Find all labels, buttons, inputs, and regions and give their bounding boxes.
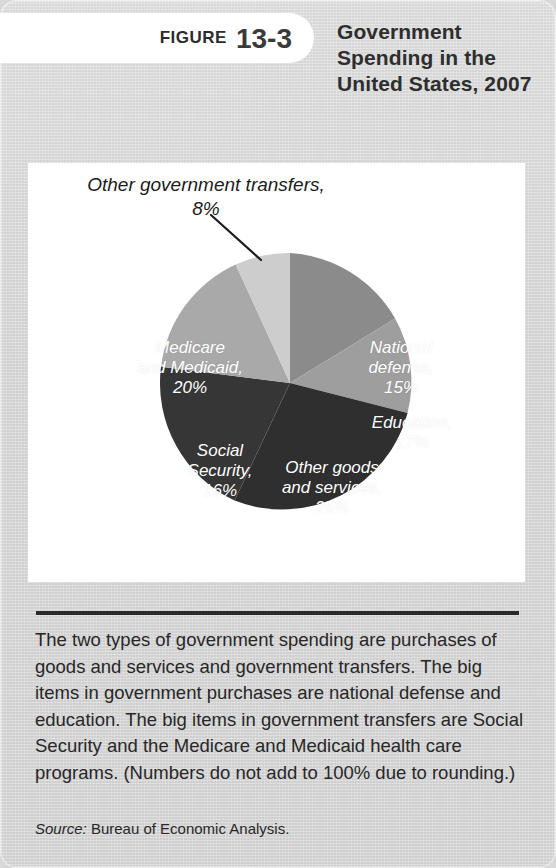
pie-label-education: Education, 17% bbox=[350, 413, 474, 453]
caption-text: The two types of government spending are… bbox=[35, 627, 529, 786]
figure-title: Government Spending in the United States… bbox=[337, 19, 547, 97]
figure-card: FIGURE 13-3 Government Spending in the U… bbox=[0, 0, 556, 868]
figure-number: 13-3 bbox=[236, 23, 292, 55]
pie-label-other-goods-and-services: Other goods and services, 25% bbox=[256, 458, 408, 518]
pie-chart: Other government transfers, 8% National … bbox=[28, 163, 525, 582]
figure-tab: FIGURE 13-3 bbox=[0, 13, 314, 63]
pie-label-medicare-and-medicaid: Medicare and Medicaid, 20% bbox=[110, 338, 270, 398]
figure-label: FIGURE bbox=[160, 28, 227, 48]
caption-divider bbox=[36, 611, 519, 615]
callout-leader-line bbox=[211, 215, 261, 260]
pie-label-national-defense: National defense, 15% bbox=[341, 338, 461, 398]
pie-label-social-security: Social Security, 16% bbox=[164, 441, 276, 501]
source-text: Bureau of Economic Analysis. bbox=[91, 820, 289, 837]
source-label: Source: bbox=[35, 820, 87, 837]
chart-panel: Other government transfers, 8% National … bbox=[28, 163, 525, 582]
source-line: Source: Bureau of Economic Analysis. bbox=[35, 820, 529, 837]
pie-label-other-government-transfers: Other government transfers, 8% bbox=[56, 173, 356, 221]
